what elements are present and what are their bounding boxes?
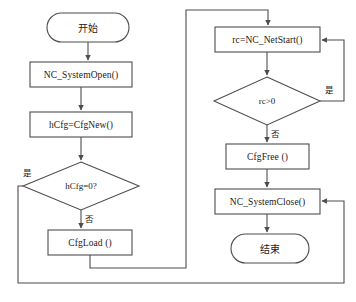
node-shape-system-open <box>30 62 132 87</box>
edge-label-cfg-check-no: 否 <box>85 212 94 224</box>
edge-label-rc-check-yes: 是 <box>325 83 334 95</box>
node-shape-start <box>47 13 129 42</box>
node-shape-cfg-free <box>226 144 309 169</box>
node-shape-cfg-new <box>30 112 132 137</box>
node-shape-system-close <box>215 189 320 214</box>
node-shape-cfg-check <box>23 162 139 210</box>
edge-label-rc-check-no: 否 <box>271 127 280 139</box>
edge-label-cfg-check-yes: 是 <box>23 166 32 178</box>
node-shape-cfg-load <box>48 230 132 255</box>
node-shape-net-start <box>215 27 320 52</box>
flowchart-canvas: 开始 NC_SystemOpen() hCfg=CfgNew() hCfg=0?… <box>0 0 356 302</box>
node-shape-end <box>231 234 309 263</box>
node-shape-rc-check <box>214 77 320 125</box>
flowchart-svg <box>0 0 356 302</box>
